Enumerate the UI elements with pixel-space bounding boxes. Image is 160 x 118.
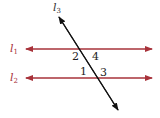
- label-l1: l1: [10, 42, 18, 56]
- angle-label-1: 1: [80, 65, 87, 78]
- label-l3: l3: [53, 1, 61, 15]
- angle-label-3: 3: [100, 66, 107, 79]
- angle-label-2: 2: [72, 50, 79, 63]
- line-l3-transversal: [59, 17, 118, 110]
- label-l2: l2: [10, 71, 18, 85]
- angle-label-4: 4: [92, 50, 99, 63]
- transversal-diagram: l3 l1 l2 2 4 1 3: [0, 0, 160, 118]
